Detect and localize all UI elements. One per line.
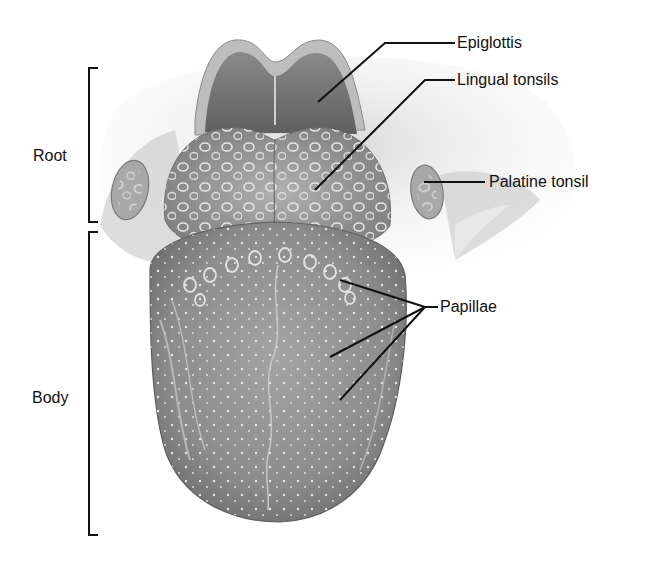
label-body: Body (32, 390, 68, 406)
label-lingual-tonsils: Lingual tonsils (457, 72, 558, 88)
label-root: Root (33, 148, 67, 164)
root-bracket (89, 68, 98, 222)
tongue-anatomy-diagram: Epiglottis Lingual tonsils Palatine tons… (0, 0, 656, 571)
epiglottis-shape (195, 40, 365, 135)
label-papillae: Papillae (440, 299, 497, 315)
label-palatine-tonsil: Palatine tonsil (489, 174, 589, 190)
region-brackets (89, 68, 98, 535)
body-bracket (89, 232, 98, 535)
tongue-body (150, 222, 406, 522)
label-epiglottis: Epiglottis (457, 35, 522, 51)
